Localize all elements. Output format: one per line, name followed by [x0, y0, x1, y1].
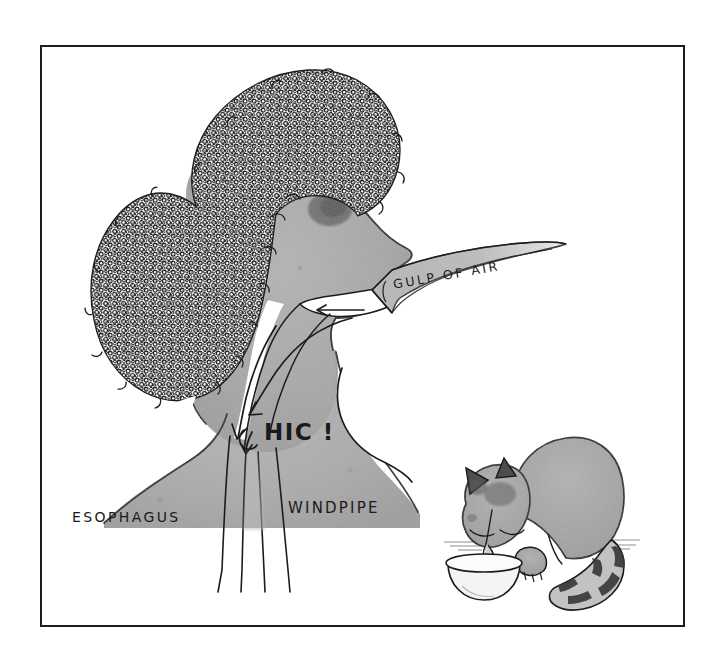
cat-drinking-figure	[444, 437, 640, 610]
illustration-canvas	[0, 0, 723, 659]
cartoon-illustration: ESOPHAGUS WINDPIPE HIC ! GULP OF AIR	[0, 0, 723, 659]
label-windpipe: WINDPIPE	[288, 499, 380, 517]
label-esophagus: ESOPHAGUS	[72, 509, 181, 525]
label-hiccup: HIC !	[264, 419, 335, 445]
